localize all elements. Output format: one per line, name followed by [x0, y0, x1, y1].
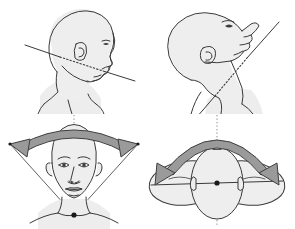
- panel-head-lateral-flexion: [0, 113, 148, 229]
- cone-endpoint-left: [8, 142, 11, 145]
- arrowhead-left: [10, 139, 30, 157]
- cone-endpoint-right: [136, 142, 139, 145]
- panel-head-neck-flexion: [0, 0, 148, 114]
- lip-split: [66, 189, 82, 190]
- ear-outline: [200, 46, 215, 63]
- arrowhead-right: [118, 139, 138, 157]
- rotation-illustration: [147, 113, 295, 229]
- extension-illustration: [147, 0, 295, 114]
- panel-head-neck-extension: [147, 0, 295, 114]
- ear-left: [46, 163, 52, 176]
- ear-right: [96, 163, 102, 176]
- ear-outline: [74, 42, 86, 60]
- anatomy-figure: [0, 0, 295, 229]
- pivot-point: [71, 212, 76, 217]
- pivot-point: [214, 180, 219, 185]
- pupil-right: [82, 163, 85, 166]
- pupil-left: [62, 163, 65, 166]
- flexion-illustration: [0, 0, 148, 114]
- panel-head-rotation: [147, 113, 295, 229]
- shoulder-left: [191, 92, 201, 114]
- reference-line-right-segment: [103, 71, 135, 81]
- lateral-flexion-illustration: [0, 113, 148, 229]
